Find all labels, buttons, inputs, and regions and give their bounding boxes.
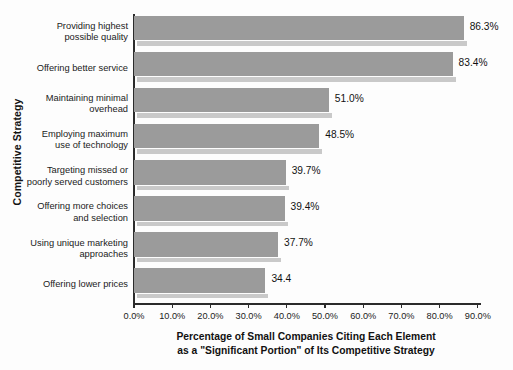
bar-group[interactable]: 86.3% (134, 16, 513, 52)
bar-value-label: 39.7% (292, 165, 321, 176)
x-axis-tick-label: 20.0% (197, 311, 223, 321)
bar[interactable] (134, 52, 453, 77)
y-axis-category-labels: Providing highestpossible qualityOfferin… (26, 14, 131, 303)
bar-group[interactable]: 83.4% (134, 52, 513, 88)
bar-shadow (137, 149, 322, 154)
x-axis-tick-label: 80.0% (427, 311, 453, 321)
category-label-line: Providing highest (26, 21, 128, 32)
bar-group[interactable]: 39.7% (134, 160, 346, 196)
x-axis-tick-label: 40.0% (274, 311, 300, 321)
x-axis-title: Percentage of Small Companies Citing Eac… (134, 330, 478, 357)
bar-shadow (137, 294, 268, 299)
bar-shadow (137, 186, 289, 191)
bar[interactable] (134, 124, 319, 149)
category-label: Offering better service (26, 50, 128, 86)
bar-shadow (137, 258, 281, 263)
bar-value-label: 51.0% (335, 93, 364, 104)
bar-value-label: 86.3% (470, 21, 499, 32)
x-axis-tick-label: 90.0% (465, 311, 491, 321)
category-label-line: possible quality (26, 32, 128, 43)
bar-shadow (137, 77, 456, 82)
category-label: Employing maximumuse of technology (26, 122, 128, 158)
category-label-line: Using unique marketing (26, 238, 128, 249)
bar[interactable] (134, 16, 464, 41)
category-label: Targeting missed orpoorly served custome… (26, 159, 128, 195)
bar-shadow (137, 41, 467, 46)
bar-shadow (137, 222, 288, 227)
bar-group[interactable]: 51.0% (134, 88, 389, 124)
bar-group[interactable]: 34.4 (134, 268, 325, 304)
bar-shadow (137, 113, 332, 118)
bar-value-label: 39.4% (291, 201, 320, 212)
category-label-line: poorly served customers (26, 177, 128, 188)
category-label-line: overhead (26, 104, 128, 115)
category-label-line: use of technology (26, 140, 128, 151)
bar[interactable] (134, 232, 278, 257)
x-axis-title-line-1: Percentage of Small Companies Citing Eac… (134, 330, 478, 344)
bar[interactable] (134, 160, 286, 185)
x-axis-tick-label: 30.0% (236, 311, 262, 321)
category-label-line: Offering more choices (26, 201, 128, 212)
category-label: Maintaining minimaloverhead (26, 86, 128, 122)
category-label: Using unique marketingapproaches (26, 231, 128, 267)
y-axis-title: Competitive Strategy (11, 98, 23, 205)
plot-area: 0.0%10.0%20.0%30.0%40.0%50.0%60.0%70.0%8… (134, 14, 478, 303)
category-label-line: Offering lower prices (26, 279, 128, 290)
bar-value-label: 37.7% (284, 237, 313, 248)
category-label-line: Targeting missed or (26, 165, 128, 176)
bar[interactable] (134, 268, 265, 293)
bar-value-label: 34.4 (271, 273, 291, 284)
x-axis-tick-label: 70.0% (388, 311, 414, 321)
x-axis-title-line-2: as a "Significant Portion" of Its Compet… (134, 344, 478, 358)
category-label-line: Employing maximum (26, 129, 128, 140)
x-axis-tick (401, 303, 402, 308)
category-label: Offering more choicesand selection (26, 195, 128, 231)
category-label-line: Maintaining minimal (26, 93, 128, 104)
bar-value-label: 48.5% (325, 129, 354, 140)
bar[interactable] (134, 196, 285, 221)
x-axis-tick-label: 50.0% (312, 311, 338, 321)
bar-chart-figure: Competitive Strategy Providing highestpo… (0, 0, 513, 370)
category-label-line: approaches (26, 249, 128, 260)
category-label-line: and selection (26, 213, 128, 224)
bar[interactable] (134, 88, 329, 113)
bar-group[interactable]: 48.5% (134, 124, 379, 160)
x-axis-tick (363, 303, 364, 308)
x-axis-tick-label: 0.0% (124, 311, 145, 321)
x-axis-tick (477, 303, 478, 308)
category-label: Providing highestpossible quality (26, 14, 128, 50)
category-label: Offering lower prices (26, 267, 128, 303)
bar-group[interactable]: 37.7% (134, 232, 338, 268)
bar-group[interactable]: 39.4% (134, 196, 345, 232)
bar-value-label: 83.4% (459, 57, 488, 68)
x-axis-tick (439, 303, 440, 308)
x-axis-tick-label: 60.0% (350, 311, 376, 321)
x-axis-tick-label: 10.0% (159, 311, 185, 321)
category-label-line: Offering better service (26, 63, 128, 74)
